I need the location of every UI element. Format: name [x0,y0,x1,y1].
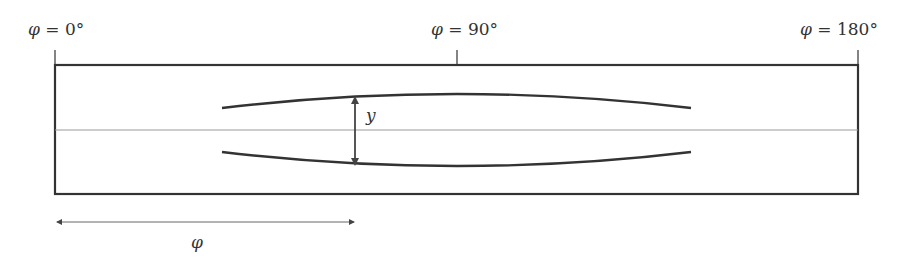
label-gap-y: y [365,105,376,125]
label-phi-90: φ = 90° [431,19,498,39]
label-arc-phi: φ [191,232,203,252]
label-phi-0: φ = 0° [28,19,84,39]
diagram: φ = 0° φ = 90° φ = 180° y φ [0,0,915,260]
label-phi-180: φ = 180° [800,19,878,39]
upper-curve [222,94,691,108]
lower-curve [222,152,691,166]
